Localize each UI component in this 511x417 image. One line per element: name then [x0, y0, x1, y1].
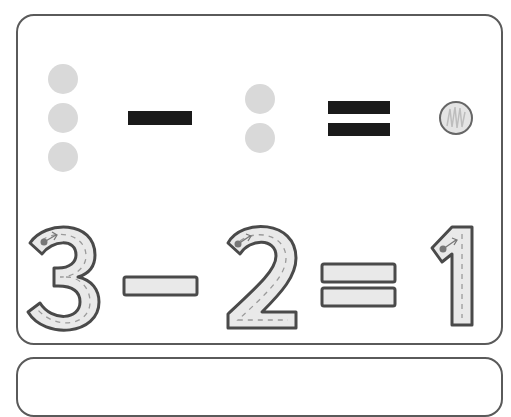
dot-group-three [48, 64, 78, 172]
counting-dot [48, 64, 78, 94]
trace-minus-sign-icon [124, 277, 197, 295]
trace-digit-3-icon [28, 227, 99, 330]
trace-equals-sign-icon [322, 264, 395, 306]
counting-dot [48, 103, 78, 133]
equals-sign-icon [328, 101, 390, 136]
minus-sign-icon [128, 111, 192, 125]
trace-digit-1-icon [432, 227, 472, 325]
dot-group-two [245, 84, 275, 153]
counting-dot [48, 142, 78, 172]
trace-digit-2-icon [228, 226, 296, 328]
counting-dot [245, 123, 275, 153]
answer-scribble-circle-icon [440, 102, 472, 134]
counting-dot [245, 84, 275, 114]
